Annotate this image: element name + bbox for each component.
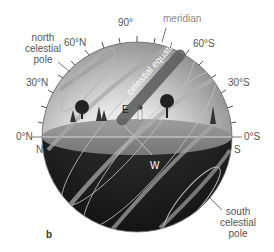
ncp-line-2: celestial — [20, 43, 66, 54]
north-point-label: N — [36, 144, 43, 155]
ncp-line-1: north — [20, 32, 66, 43]
scp-line-2: celestial — [214, 217, 262, 228]
scp-line-1: south — [214, 206, 262, 217]
meridian-label: meridian — [163, 13, 201, 24]
west-point-label: W — [150, 160, 159, 171]
zenith-label: 90° — [118, 17, 133, 28]
south-celestial-pole-label: south celestial pole — [214, 206, 262, 239]
label-60S: 60°S — [193, 38, 215, 49]
panel-label: b — [46, 229, 52, 240]
label-30S: 30°S — [228, 77, 250, 88]
east-point-label: E — [122, 104, 129, 115]
scp-line-3: pole — [214, 228, 262, 239]
north-celestial-pole-label: north celestial pole — [20, 32, 66, 65]
celestial-sphere-diagram: 90° meridian 60°N 60°S 30°N 30°S 0°N 0°S… — [0, 0, 274, 252]
ncp-line-3: pole — [20, 54, 66, 65]
label-30N: 30°N — [26, 77, 48, 88]
label-60N: 60°N — [64, 37, 86, 48]
south-point-label: S — [234, 144, 241, 155]
label-0N: 0°N — [16, 131, 33, 142]
label-0S: 0°S — [244, 131, 260, 142]
